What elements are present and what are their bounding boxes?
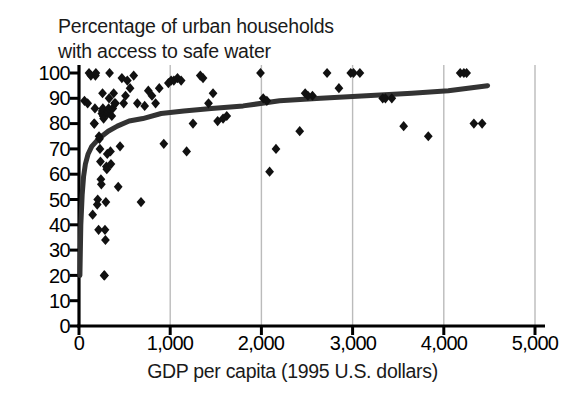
data-point — [91, 103, 100, 113]
data-point — [470, 119, 479, 129]
data-point — [155, 83, 164, 93]
plot-area — [0, 0, 585, 401]
data-point — [137, 197, 146, 207]
data-point — [105, 68, 114, 78]
data-point — [159, 139, 168, 149]
data-point — [119, 98, 128, 108]
data-point — [478, 119, 487, 129]
data-point — [114, 182, 123, 192]
data-point — [265, 167, 274, 177]
data-point — [100, 270, 109, 280]
data-point — [182, 146, 191, 156]
data-point — [272, 144, 281, 154]
data-point — [256, 68, 265, 78]
data-point — [209, 88, 218, 98]
data-point — [90, 119, 99, 129]
data-point — [102, 197, 111, 207]
data-point — [129, 70, 138, 80]
fit-curve-path — [80, 86, 488, 276]
data-point — [356, 68, 365, 78]
fit-curve — [80, 86, 488, 276]
data-point — [96, 144, 105, 154]
gridlines — [170, 65, 535, 326]
data-point — [101, 225, 110, 235]
data-point — [399, 121, 408, 131]
data-point — [121, 91, 130, 101]
data-point — [88, 210, 97, 220]
data-point — [335, 83, 344, 93]
data-point — [323, 68, 332, 78]
data-point — [140, 101, 149, 111]
data-point — [424, 131, 433, 141]
data-point — [189, 119, 198, 129]
data-point — [98, 88, 107, 98]
data-point — [101, 235, 110, 245]
chart-figure: Percentage of urban households with acce… — [0, 0, 585, 401]
data-point — [116, 141, 125, 151]
data-point — [133, 98, 142, 108]
data-point — [295, 126, 304, 136]
